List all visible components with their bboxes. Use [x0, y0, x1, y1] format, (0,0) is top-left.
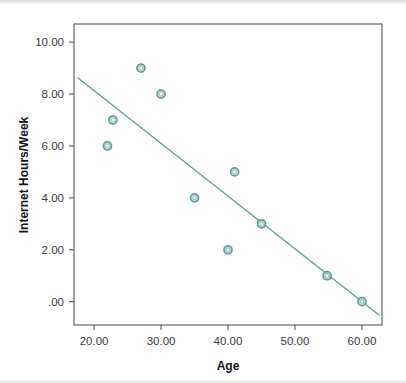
data-point-center-9	[361, 300, 363, 302]
y-tick-label-5: 10.00	[35, 36, 64, 48]
x-tick-label-4: 60.00	[348, 335, 377, 347]
y-axis-ticks	[69, 42, 74, 301]
data-point-center-0	[106, 145, 108, 147]
x-tick-label-0: 20.00	[80, 335, 109, 347]
chart-canvas: 20.0030.0040.0050.0060.00 .002.004.006.0…	[0, 0, 406, 383]
data-point-center-5	[227, 249, 229, 251]
scatter-chart: 20.0030.0040.0050.0060.00 .002.004.006.0…	[0, 0, 406, 383]
data-point-center-8	[326, 274, 328, 276]
x-tick-label-1: 30.00	[147, 335, 176, 347]
y-tick-label-0: .00	[48, 296, 64, 308]
x-tick-label-3: 50.00	[281, 335, 310, 347]
y-tick-label-1: 2.00	[42, 244, 64, 256]
y-axis-title: Internet Hours/Week	[17, 116, 31, 233]
y-axis-tick-labels: .002.004.006.008.0010.00	[35, 36, 64, 307]
data-point-center-2	[140, 67, 142, 69]
y-tick-label-2: 4.00	[42, 192, 64, 204]
data-point-center-6	[233, 171, 235, 173]
plot-frame	[74, 24, 382, 325]
data-point-center-7	[260, 223, 262, 225]
x-axis-tick-labels: 20.0030.0040.0050.0060.00	[80, 335, 377, 347]
y-tick-label-3: 6.00	[42, 140, 64, 152]
x-axis-title: Age	[217, 359, 240, 373]
data-point-center-1	[112, 119, 114, 121]
data-point-center-3	[160, 93, 162, 95]
x-tick-label-2: 40.00	[214, 335, 243, 347]
x-axis-ticks	[94, 325, 362, 330]
data-point-center-4	[193, 197, 195, 199]
y-tick-label-4: 8.00	[42, 88, 64, 100]
